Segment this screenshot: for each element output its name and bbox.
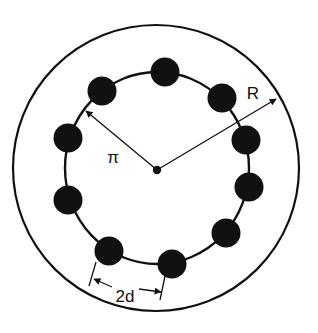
spacing-label: 2d: [116, 287, 135, 306]
spacing-tick-right: [160, 276, 165, 300]
bead: [95, 237, 124, 266]
bead: [158, 250, 187, 279]
outer-radius-label: R: [247, 84, 259, 103]
spacing-arrow-right: [139, 289, 161, 292]
spacing-tick-left: [89, 262, 96, 286]
bead: [88, 77, 117, 106]
bead: [54, 124, 83, 153]
inner-radius-label: π: [107, 148, 119, 167]
center-dot: [153, 166, 161, 174]
spacing-arrow-left: [94, 279, 112, 287]
bead: [151, 58, 180, 87]
inner-radius-arrow: [86, 111, 157, 170]
bead: [54, 186, 83, 215]
bead-ring-diagram: π R 2d: [0, 0, 318, 333]
bead: [212, 219, 241, 248]
bead: [232, 126, 261, 155]
bead: [208, 84, 237, 113]
bead: [235, 173, 264, 202]
